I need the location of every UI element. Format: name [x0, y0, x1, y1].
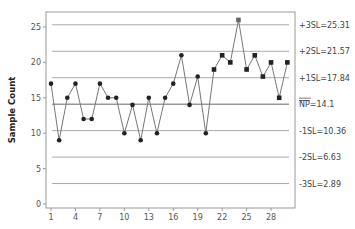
x-tick-label: 22: [217, 213, 227, 222]
x-axis: 14710131619222528: [48, 208, 276, 222]
circle-marker: [73, 81, 78, 86]
control-line-label: -2SL=6.63: [299, 153, 341, 162]
data-series-line: [51, 20, 287, 140]
x-tick-label: 1: [48, 213, 53, 222]
circle-marker: [130, 103, 135, 108]
circle-marker: [171, 81, 176, 86]
y-tick-label: 25: [31, 23, 41, 32]
control-line-label: +2SL=21.57: [299, 47, 350, 56]
circle-marker: [179, 53, 184, 58]
control-line-label: -3SL=2.89: [299, 180, 341, 189]
circle-marker: [187, 103, 192, 108]
circle-marker: [195, 74, 200, 79]
square-marker: [252, 53, 257, 58]
series-polyline: [51, 20, 287, 140]
control-line-labels: +3SL=25.31+2SL=21.57+1SL=17.84NP=14.1-1S…: [299, 21, 350, 189]
y-tick-label: 0: [36, 200, 41, 209]
y-tick-label: 5: [36, 165, 41, 174]
circle-marker: [147, 96, 152, 101]
circle-marker: [65, 96, 70, 101]
x-tick-label: 16: [168, 213, 178, 222]
circle-marker: [114, 96, 119, 101]
y-axis-label: Sample Count: [7, 77, 17, 144]
x-tick-label: 10: [119, 213, 129, 222]
circle-marker: [106, 96, 111, 101]
x-tick-label: 4: [73, 213, 78, 222]
circle-marker: [138, 138, 143, 143]
circle-marker: [122, 131, 127, 136]
x-tick-label: 28: [266, 213, 276, 222]
square-marker: [228, 60, 233, 65]
circle-marker: [155, 131, 160, 136]
x-tick-label: 7: [97, 213, 102, 222]
plot-border: [46, 12, 295, 208]
y-tick-label: 15: [31, 94, 41, 103]
np-control-chart: 0510152025 14710131619222528 +3SL=25.31+…: [0, 0, 355, 229]
x-tick-label: 25: [242, 213, 252, 222]
square-marker: [220, 53, 225, 58]
y-tick-label: 10: [31, 129, 41, 138]
data-markers: [49, 18, 290, 143]
circle-marker: [98, 81, 103, 86]
x-tick-label: 19: [193, 213, 203, 222]
circle-marker: [49, 81, 54, 86]
control-line-label: NP=14.1: [299, 100, 334, 109]
square-marker: [236, 18, 241, 23]
circle-marker: [163, 96, 168, 101]
circle-marker: [89, 117, 94, 122]
control-line-label: +1SL=17.84: [299, 74, 350, 83]
plot-frame: [46, 12, 295, 208]
x-tick-label: 13: [144, 213, 154, 222]
square-marker: [277, 96, 282, 101]
y-axis: 0510152025: [31, 23, 46, 209]
circle-marker: [57, 138, 62, 143]
square-marker: [244, 67, 249, 72]
control-line-label: -1SL=10.36: [299, 127, 346, 136]
square-marker: [269, 60, 274, 65]
control-line-label: +3SL=25.31: [299, 21, 350, 30]
y-tick-label: 20: [31, 58, 41, 67]
square-marker: [212, 67, 217, 72]
circle-marker: [204, 131, 209, 136]
square-marker: [261, 74, 266, 79]
circle-marker: [81, 117, 86, 122]
square-marker: [285, 60, 290, 65]
control-lines: [52, 25, 289, 184]
